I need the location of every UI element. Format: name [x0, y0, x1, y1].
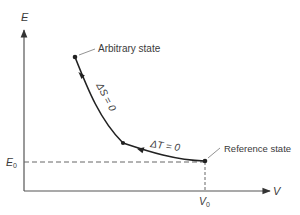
y-axis-label: E: [21, 11, 29, 23]
adiabat-path: [75, 57, 123, 143]
arbitrary-state-label: Arbitrary state: [98, 43, 161, 54]
e0-label: E0: [6, 156, 17, 169]
arbitrary-state-leader: [79, 49, 95, 55]
reference-state-leader: [208, 148, 220, 158]
v0-label: V0: [199, 195, 210, 208]
reference-state-label: Reference state: [224, 143, 291, 154]
e-v-diagram: E V E0 V0 Arbitrary state Reference stat…: [0, 0, 300, 215]
reference-state-point: [203, 159, 208, 164]
x-axis-label: V: [273, 185, 282, 197]
arbitrary-state-point: [73, 55, 78, 60]
junction-point: [121, 141, 125, 145]
isotherm-label: ΔT = 0: [149, 138, 181, 153]
